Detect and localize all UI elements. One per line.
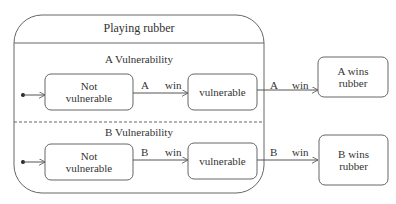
transition-label-a2-player: A xyxy=(270,79,278,91)
final-b-line2: rubber xyxy=(339,160,368,172)
final-state-a-label: A wins rubber xyxy=(318,57,388,97)
state-b-vulnerable-label: vulnerable xyxy=(188,143,257,179)
transition-label-b2-event: win xyxy=(292,146,309,158)
final-a-line2: rubber xyxy=(339,77,368,89)
transition-label-b2-player: B xyxy=(270,146,277,158)
final-state-b-label: B wins rubber xyxy=(319,135,388,185)
state-b-not-line1: Not xyxy=(81,150,98,162)
final-b-line1: B wins xyxy=(338,148,369,160)
transition-label-b1-player: B xyxy=(141,146,148,158)
final-a-line1: A wins xyxy=(338,65,369,77)
composite-title: Playing rubber xyxy=(14,22,264,34)
transition-label-a1-player: A xyxy=(141,79,149,91)
region-b-title: B Vulnerability xyxy=(14,126,264,138)
transition-label-a2-event: win xyxy=(292,79,309,91)
region-a-title: A Vulnerability xyxy=(14,53,264,65)
transition-label-b1-event: win xyxy=(165,146,182,158)
state-b-vuln-line1: vulnerable xyxy=(199,155,245,167)
state-b-not-line2: vulnerable xyxy=(66,162,112,174)
transition-label-a1-event: win xyxy=(165,79,182,91)
state-a-not-line2: vulnerable xyxy=(66,92,112,104)
state-a-vuln-line1: vulnerable xyxy=(199,86,245,98)
state-b-not-vulnerable-label: Not vulnerable xyxy=(45,144,133,180)
state-a-vulnerable-label: vulnerable xyxy=(188,74,257,110)
state-a-not-line1: Not xyxy=(81,80,98,92)
state-a-not-vulnerable-label: Not vulnerable xyxy=(45,74,133,110)
